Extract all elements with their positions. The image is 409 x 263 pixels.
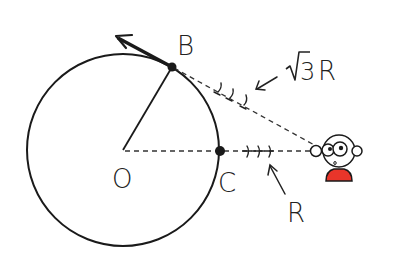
observer-eye-left [322,144,334,156]
observer-ear-left [311,146,322,157]
label-o: O [112,164,132,194]
label-distance-c: R [287,198,305,228]
observer-ear-right [352,146,362,156]
pointer-arrow-sqrt3r [256,77,277,90]
velocity-arrow [118,38,172,67]
point-c [215,146,225,156]
observer-character [311,135,363,181]
point-b [168,63,177,72]
label-c: C [218,168,236,198]
sound-wave-marks-b [214,83,247,109]
dashed-line-b-observer [174,68,318,147]
label-b: B [177,31,194,61]
circle-motion-diagram: B O C 3 R R [0,0,409,263]
label-sqrt-value: 3 [300,58,315,86]
sound-wave-marks-c [243,146,273,157]
label-distance-b: R [318,56,336,86]
label-sqrt3-r: 3 R [286,52,336,86]
pointer-arrow-r [268,165,285,194]
observer-shirt [326,169,352,181]
radius-ob [123,67,172,150]
